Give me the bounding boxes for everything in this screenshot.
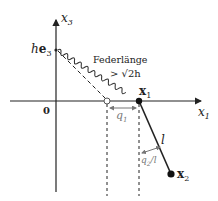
mass2-dot: [167, 170, 174, 177]
rest-position-marker: [104, 98, 110, 104]
origin-label: 0: [43, 106, 50, 116]
x1-axis-label: x1: [198, 106, 210, 121]
anchor-label: he3: [31, 43, 51, 58]
mass2-label: x2: [177, 168, 189, 183]
q2-arrow: [142, 147, 160, 153]
mass1-label: x1: [139, 85, 151, 100]
q1-label: q1: [116, 110, 128, 124]
pendulum-length-label: l: [161, 134, 165, 146]
anchor-dot: [54, 48, 57, 51]
x3-axis-label: x3: [61, 12, 73, 27]
q2-label: q2/l: [141, 156, 157, 167]
spring-length-label: Federlänge: [93, 55, 147, 65]
spring-length-condition: > √2h: [110, 69, 141, 79]
